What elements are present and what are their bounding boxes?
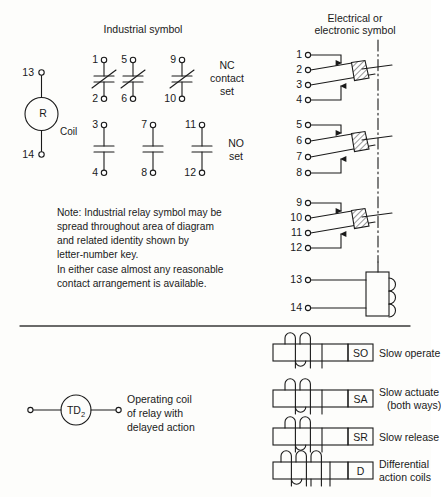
note-line-6: contact arrangement is available. bbox=[57, 277, 207, 291]
nc-set-label-line1: NC bbox=[205, 59, 249, 71]
electrical-terminal-11: 11 bbox=[276, 226, 302, 238]
nc-set-label-line2: contact bbox=[201, 72, 253, 84]
nc-contact-2-terminal-bottom: 6 bbox=[105, 92, 127, 104]
coil-tag-sa: SA bbox=[348, 393, 373, 405]
electrical-coil-terminal-13: 13 bbox=[276, 273, 302, 285]
industrial-coil-label: Coil bbox=[60, 126, 77, 138]
electrical-terminal-10: 10 bbox=[276, 211, 302, 223]
electrical-contact-group-3 bbox=[305, 200, 392, 250]
no-contact-2-terminal-bottom: 8 bbox=[125, 166, 147, 178]
electrical-terminal-12: 12 bbox=[276, 241, 302, 253]
coil-desc-d-line1: Differential bbox=[379, 458, 429, 471]
heading-industrial-symbol: Industrial symbol bbox=[78, 23, 208, 35]
coil-tag-d: D bbox=[348, 465, 373, 477]
industrial-coil-marker: R bbox=[35, 107, 51, 119]
heading-electrical-symbol-line2: electronic symbol bbox=[295, 24, 415, 36]
nc-contact-3-terminal-top: 9 bbox=[154, 53, 176, 65]
electrical-contact-group-1 bbox=[305, 52, 392, 102]
coil-tag-so: SO bbox=[348, 347, 373, 359]
no-contact-3-terminal-top: 11 bbox=[168, 118, 196, 130]
time-delay-marker-text: TD bbox=[67, 404, 81, 416]
time-delay-marker-subscript: 2 bbox=[81, 410, 85, 419]
electrical-coil-terminal-14: 14 bbox=[276, 301, 302, 313]
time-delay-desc-line3: delayed action bbox=[127, 421, 195, 435]
industrial-coil-terminal-14: 14 bbox=[6, 148, 34, 160]
note-line-4: letter-number key. bbox=[57, 248, 138, 262]
industrial-coil-terminal-13: 13 bbox=[6, 66, 34, 78]
electrical-terminal-2: 2 bbox=[282, 63, 302, 75]
note-line-3: and related identity shown by bbox=[57, 234, 189, 248]
nc-set-label-line3: set bbox=[205, 85, 249, 97]
electrical-terminal-4: 4 bbox=[282, 93, 302, 105]
coil-desc-d-line2: action coils bbox=[379, 471, 431, 484]
nc-contact-1-terminal-bottom: 2 bbox=[76, 92, 98, 104]
electrical-terminal-9: 9 bbox=[276, 196, 302, 208]
no-contact-2-terminal-top: 7 bbox=[125, 118, 147, 130]
electrical-operating-coil bbox=[305, 262, 395, 317]
coil-desc-sa-line2: (both ways) bbox=[387, 399, 441, 412]
no-contact-3-terminal-bottom: 12 bbox=[168, 166, 196, 178]
coil-desc-sr-line1: Slow release bbox=[379, 431, 439, 444]
electrical-terminal-5: 5 bbox=[282, 118, 302, 130]
electrical-terminal-8: 8 bbox=[282, 166, 302, 178]
electrical-terminal-1: 1 bbox=[282, 48, 302, 60]
note-line-5: In either case almost any reasonable bbox=[57, 263, 224, 277]
electrical-contact-group-2 bbox=[305, 122, 392, 175]
heading-electrical-symbol-line1: Electrical or bbox=[300, 12, 410, 24]
no-contact-1-terminal-top: 3 bbox=[76, 118, 98, 130]
note-line-1: Note: Industrial relay symbol may be bbox=[57, 206, 222, 220]
nc-contact-1-terminal-top: 1 bbox=[76, 53, 98, 65]
electrical-terminal-6: 6 bbox=[282, 134, 302, 146]
note-line-2: spread throughout area of diagram bbox=[57, 220, 214, 234]
coil-desc-sa-line1: Slow actuate bbox=[379, 386, 439, 399]
electrical-terminal-7: 7 bbox=[282, 150, 302, 162]
time-delay-marker: TD2 bbox=[62, 404, 90, 420]
no-set-label-line1: NO bbox=[222, 137, 250, 149]
time-delay-desc-line1: Operating coil bbox=[127, 393, 192, 407]
coil-desc-so-line1: Slow operate bbox=[379, 347, 440, 360]
time-delay-desc-line2: of relay with bbox=[127, 407, 183, 421]
no-set-label-line2: set bbox=[222, 150, 250, 162]
electrical-terminal-3: 3 bbox=[282, 78, 302, 90]
no-contact-1-terminal-bottom: 4 bbox=[76, 166, 98, 178]
nc-contact-3-terminal-bottom: 10 bbox=[148, 92, 176, 104]
nc-contact-2-terminal-top: 5 bbox=[105, 53, 127, 65]
coil-tag-sr: SR bbox=[348, 431, 373, 443]
